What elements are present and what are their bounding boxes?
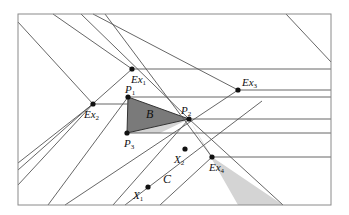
construction-line: [53, 14, 132, 69]
diagram-canvas: [0, 0, 349, 215]
construction-lines: [18, 14, 331, 205]
construction-line: [286, 14, 331, 62]
point-ex2-label: Ex2: [84, 109, 99, 122]
point-x2-dot: [182, 146, 187, 151]
point-ex1-dot: [129, 66, 134, 71]
region-c-label: C: [163, 173, 171, 185]
point-x2-label: X2: [174, 154, 184, 167]
point-ex3-dot: [235, 87, 240, 92]
point-ex4-dot: [209, 154, 214, 159]
point-ex3-label: Ex3: [242, 77, 257, 90]
construction-line: [105, 14, 212, 157]
point-x1-label: X1: [133, 190, 143, 203]
construction-line: [93, 14, 238, 90]
point-ex4-label: Ex4: [209, 162, 224, 175]
point-p2-label: P2: [181, 105, 191, 118]
region-b-label: B: [146, 108, 153, 120]
point-p3-label: P3: [124, 138, 134, 151]
point-p1-label: P1: [125, 84, 135, 97]
point-ex2-dot: [90, 101, 95, 106]
construction-line: [18, 104, 93, 163]
diagram-frame: [18, 14, 331, 205]
point-x1-dot: [145, 184, 150, 189]
point-p3-dot: [124, 130, 129, 135]
construction-line: [18, 104, 93, 185]
